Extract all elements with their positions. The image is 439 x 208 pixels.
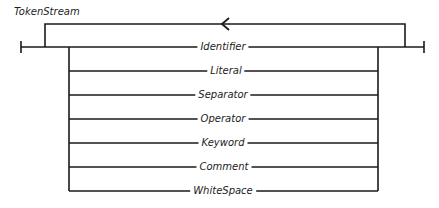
node-literal: Literal	[207, 65, 244, 77]
node-comment: Comment	[197, 161, 252, 173]
node-separator: Separator	[195, 89, 250, 101]
railroad-diagram	[0, 0, 439, 208]
node-identifier: Identifier	[197, 41, 248, 53]
node-operator: Operator	[198, 113, 249, 125]
node-whitespace: WhiteSpace	[190, 185, 256, 197]
node-keyword: Keyword	[198, 137, 247, 149]
